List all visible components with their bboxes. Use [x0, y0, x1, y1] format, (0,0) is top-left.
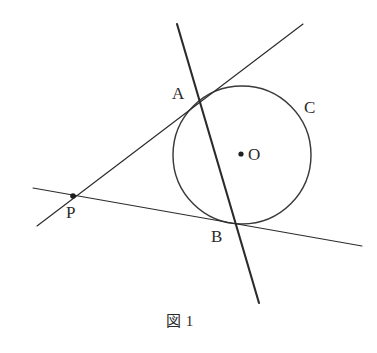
point-label-o: O: [248, 146, 260, 163]
geometry-canvas: [0, 0, 377, 353]
line-p-b-secant: [33, 188, 362, 246]
line-a-b-steep: [177, 24, 259, 303]
point-dot-p: [70, 193, 76, 199]
figure-caption: 図 1: [166, 314, 194, 329]
point-label-a: A: [172, 85, 184, 102]
point-label-b: B: [211, 228, 222, 245]
line-p-a-secant: [37, 24, 303, 226]
geometry-figure: A B P O C 図 1: [0, 0, 377, 353]
point-label-p: P: [66, 204, 75, 221]
point-dot-o: [238, 151, 243, 156]
circle-label-c: C: [304, 99, 315, 116]
